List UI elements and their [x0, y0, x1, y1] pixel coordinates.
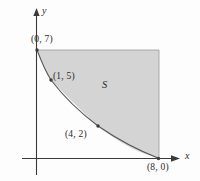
point-label-8-0: (8, 0): [147, 162, 169, 172]
region-label-s: S: [102, 79, 107, 90]
figure-container: (0, 7) (1, 5) (4, 2) (8, 0) y x S: [0, 0, 200, 181]
coordinate-plot: [0, 0, 200, 181]
x-axis-label: x: [185, 150, 189, 161]
point-label-0-7: (0, 7): [31, 34, 53, 44]
data-point-0-7: [35, 48, 38, 51]
data-point-4-2: [96, 124, 99, 127]
point-label-1-5: (1, 5): [53, 71, 75, 81]
x-axis-arrowhead: [171, 155, 180, 161]
point-label-4-2: (4, 2): [65, 129, 87, 139]
shaded-region-s: [37, 50, 159, 158]
y-axis-arrowhead: [33, 8, 39, 16]
y-axis-label: y: [42, 5, 46, 16]
data-point-8-0: [157, 157, 160, 160]
